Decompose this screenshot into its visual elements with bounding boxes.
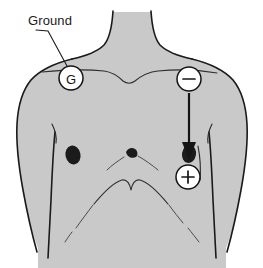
ecg-electrode-placement-figure: G Ground	[0, 0, 263, 268]
torso-body	[17, 12, 247, 268]
electrode-ground[interactable]: G	[59, 66, 83, 90]
electrode-negative[interactable]	[177, 67, 201, 91]
ground-electrode-label: G	[66, 72, 76, 87]
torso-diagram-svg: G	[0, 0, 263, 268]
electrode-positive[interactable]	[176, 165, 200, 189]
ground-label: Ground	[28, 14, 72, 27]
ground-leader-line	[36, 30, 67, 66]
torso-fill-shape	[17, 12, 247, 268]
